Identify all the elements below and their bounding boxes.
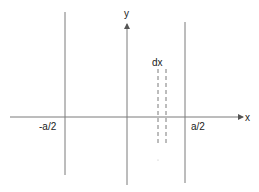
x-axis-label: x bbox=[245, 112, 250, 123]
strip-dx-label: dx bbox=[152, 57, 163, 68]
right-boundary-label: a/2 bbox=[191, 121, 205, 132]
diagram-canvas: y x dx -a/2 a/2 bbox=[0, 0, 259, 192]
y-axis-label: y bbox=[124, 8, 129, 19]
left-boundary-label: -a/2 bbox=[39, 121, 57, 132]
strip-dot bbox=[157, 159, 158, 160]
